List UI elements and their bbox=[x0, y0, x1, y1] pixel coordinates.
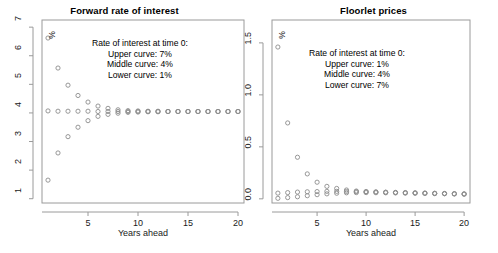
x-tick-label: 15 bbox=[183, 218, 193, 228]
data-point bbox=[46, 109, 50, 113]
annotation-line: Lower curve: 7% bbox=[309, 80, 405, 91]
y-tick-label: 0.0 bbox=[243, 188, 253, 208]
annotation-heading: Rate of interest at time 0: bbox=[92, 38, 188, 49]
annotation-line: Upper curve: 7% bbox=[92, 49, 188, 60]
y-tick-label: 4 bbox=[13, 102, 23, 122]
data-point bbox=[206, 109, 210, 113]
data-point bbox=[176, 109, 180, 113]
data-point bbox=[76, 109, 80, 113]
data-point bbox=[66, 135, 70, 139]
data-point bbox=[86, 100, 90, 104]
data-point bbox=[96, 104, 100, 108]
data-point bbox=[76, 125, 80, 129]
y-tick-label: 5 bbox=[13, 73, 23, 93]
data-point bbox=[315, 193, 319, 197]
x-axis-label-forward-rate: Years ahead bbox=[42, 228, 244, 238]
data-point bbox=[295, 155, 299, 159]
data-point bbox=[286, 121, 290, 125]
y-tick-label: 1.0 bbox=[243, 84, 253, 104]
series-points bbox=[46, 109, 240, 114]
y-tick-label: 0.5 bbox=[243, 136, 253, 156]
y-tick-label: 1.5 bbox=[243, 32, 253, 52]
series-points bbox=[46, 109, 240, 182]
data-point bbox=[286, 195, 290, 199]
y-tick-label: 2 bbox=[13, 159, 23, 179]
annotation-block-floorlet-prices: Rate of interest at time 0:Upper curve: … bbox=[309, 48, 405, 90]
data-point bbox=[66, 83, 70, 87]
data-point bbox=[276, 191, 280, 195]
data-point bbox=[76, 93, 80, 97]
data-point bbox=[86, 109, 90, 113]
series-points bbox=[276, 189, 466, 196]
data-point bbox=[216, 109, 220, 113]
x-tick-label: 5 bbox=[85, 218, 90, 228]
annotation-line: Middle curve: 4% bbox=[309, 69, 405, 80]
data-point bbox=[325, 184, 329, 188]
y-tick-label: 7 bbox=[13, 16, 23, 36]
data-point bbox=[236, 109, 240, 113]
data-point bbox=[46, 178, 50, 182]
data-point bbox=[186, 109, 190, 113]
data-point bbox=[276, 45, 280, 49]
x-tick-label: 10 bbox=[361, 218, 371, 228]
x-tick-label: 20 bbox=[233, 218, 243, 228]
data-point bbox=[96, 109, 100, 113]
x-tick-label: 10 bbox=[133, 218, 143, 228]
data-point bbox=[305, 172, 309, 176]
annotation-line: Upper curve: 1% bbox=[309, 59, 405, 70]
y-tick-label: 3 bbox=[13, 131, 23, 151]
x-tick-label: 15 bbox=[410, 218, 420, 228]
data-point bbox=[295, 195, 299, 199]
data-point bbox=[56, 109, 60, 113]
x-axis-label-floorlet-prices: Years ahead bbox=[272, 228, 470, 238]
annotation-line: Middle curve: 4% bbox=[92, 59, 188, 70]
data-point bbox=[166, 109, 170, 113]
x-tick-label: 5 bbox=[315, 218, 320, 228]
y-unit-percent-left: % bbox=[47, 31, 57, 39]
data-point bbox=[196, 109, 200, 113]
data-point bbox=[295, 190, 299, 194]
y-unit-percent-right: % bbox=[277, 31, 287, 39]
annotation-block-forward-rate: Rate of interest at time 0:Upper curve: … bbox=[92, 38, 188, 80]
series-points bbox=[276, 191, 466, 201]
annotation-line: Lower curve: 1% bbox=[92, 70, 188, 81]
data-point bbox=[286, 191, 290, 195]
data-point bbox=[276, 196, 280, 200]
y-tick-label: 1 bbox=[13, 188, 23, 208]
y-tick-label: 6 bbox=[13, 45, 23, 65]
data-point bbox=[56, 151, 60, 155]
data-point bbox=[106, 112, 110, 116]
chart-panel-floorlet-prices: Floorlet prices % Rate of interest at ti… bbox=[249, 0, 498, 253]
data-point bbox=[86, 119, 90, 123]
data-point bbox=[315, 180, 319, 184]
annotation-heading: Rate of interest at time 0: bbox=[309, 48, 405, 59]
data-point bbox=[226, 109, 230, 113]
data-point bbox=[56, 66, 60, 70]
data-point bbox=[66, 109, 70, 113]
x-tick-label: 20 bbox=[459, 218, 469, 228]
chart-panel-forward-rate: Forward rate of interest % Rate of inter… bbox=[0, 0, 249, 253]
data-point bbox=[96, 114, 100, 118]
figure-root: Forward rate of interest % Rate of inter… bbox=[0, 0, 498, 253]
